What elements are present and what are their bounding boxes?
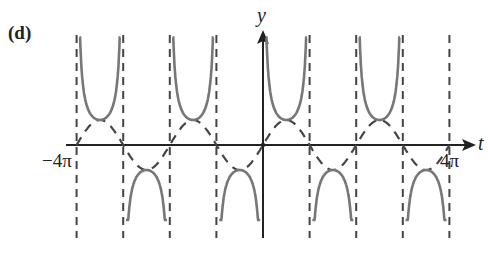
origin-point [261,143,265,147]
cosecant-branch [126,170,167,220]
cosecant-branch [79,38,120,121]
cosecant-branch [173,38,214,121]
panel-label: (d) [8,22,31,44]
tick-label-neg-4pi: −4π [42,150,72,172]
tick-label-4pi: 4π [440,150,459,172]
t-axis-label: t [478,132,484,155]
cosecant-branch [266,38,307,121]
graph-canvas [0,0,488,259]
cosecant-branch [406,170,447,220]
cosecant-branch [312,170,353,220]
y-axis-label: y [257,4,266,27]
cosecant-branch [219,170,260,220]
cosecant-branch [359,38,400,121]
